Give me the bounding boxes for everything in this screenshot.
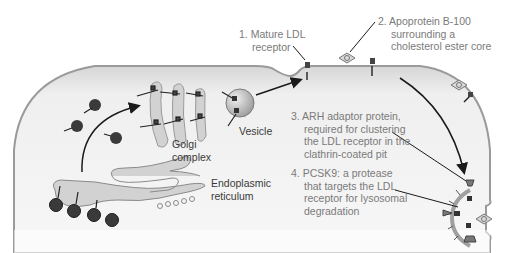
callout-2-apoprotein-b100: 2. Apoprotein B-100 surrounding a choles… <box>378 15 491 53</box>
callout-line: surrounding a <box>378 28 491 41</box>
callout-line: the LDL receptor in the <box>291 135 410 148</box>
callout-1-mature-ldl-receptor: 1. Mature LDL receptor <box>239 28 306 53</box>
golgi-label: Golgi complex <box>172 138 211 163</box>
callout-3-arh-adaptor-protein: 3. ARH adaptor protein, required for clu… <box>291 110 410 160</box>
golgi-label-line-1: Golgi <box>172 138 211 151</box>
callout-line: degradation <box>291 205 407 218</box>
callout-line: receptor for lysosomal <box>291 192 407 205</box>
callout-4-pcsk9: 4. PCSK9: a protease that targets the LD… <box>291 167 407 217</box>
callout-line: Mature LDL <box>251 28 306 40</box>
cell <box>14 66 491 253</box>
callout-line: ARH adaptor protein, <box>302 110 401 122</box>
er-label: Endoplasmic reticulum <box>211 177 271 202</box>
callout-line: that targets the LDL <box>291 180 407 193</box>
callout-line: PCSK9: a protease <box>303 167 393 179</box>
callout-line: required for clustering <box>291 123 410 136</box>
callout-line: Apoprotein B-100 <box>389 15 471 27</box>
callout-number: 3. <box>291 110 300 122</box>
er-label-line-1: Endoplasmic <box>211 177 271 190</box>
callout-number: 4. <box>291 167 300 179</box>
golgi-label-line-2: complex <box>172 151 211 164</box>
vesicle-label: Vesicle <box>239 125 272 138</box>
callout-line: cholesterol ester core <box>378 40 491 53</box>
er-label-line-2: reticulum <box>211 190 271 203</box>
callout-line: clathrin-coated pit <box>291 148 410 161</box>
callout-number: 2. <box>378 15 387 27</box>
callout-line: receptor <box>239 41 306 54</box>
callout-number: 1. <box>239 28 248 40</box>
